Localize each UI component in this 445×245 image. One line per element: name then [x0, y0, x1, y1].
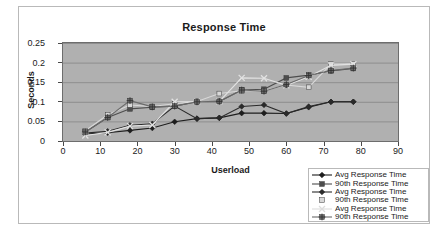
chart-title: Response Time — [19, 21, 429, 33]
y-tick-label: 0.1 — [5, 97, 45, 107]
legend-label: 90th Response Time — [333, 213, 408, 221]
data-point-square-cross — [238, 87, 245, 94]
x-tick-mark — [398, 142, 399, 146]
x-tick-label: 50 — [236, 146, 262, 156]
data-point-diamond — [261, 102, 267, 108]
data-point-square-cross — [328, 67, 335, 74]
legend-marker-square-cross-icon — [311, 213, 333, 221]
legend-label: Avg Response Time — [333, 171, 406, 179]
x-tick-mark — [63, 142, 64, 146]
y-tick-label: 0.2 — [5, 58, 45, 68]
x-tick-label: 70 — [311, 146, 337, 156]
data-point-square-cross — [319, 214, 326, 221]
data-point-diamond — [239, 110, 245, 116]
data-point-diamond — [172, 119, 178, 125]
data-point-square-cross — [171, 103, 178, 110]
chart-legend: Avg Response Time90th Response TimeAvg R… — [308, 168, 429, 222]
data-point-diamond — [319, 172, 325, 178]
x-tick-label: 40 — [199, 146, 225, 156]
x-tick-label: 90 — [385, 146, 411, 156]
x-tick-label: 20 — [124, 146, 150, 156]
legend-marker-square-icon — [311, 196, 333, 204]
x-tick-label: 60 — [273, 146, 299, 156]
x-tick-mark — [212, 142, 213, 146]
series-5 — [82, 65, 357, 136]
x-tick-mark — [100, 142, 101, 146]
legend-marker-diamond-icon — [311, 171, 333, 179]
data-point-diamond — [217, 115, 223, 121]
legend-item[interactable]: 90th Response Time — [311, 213, 426, 221]
x-tick-mark — [361, 142, 362, 146]
x-tick-label: 10 — [87, 146, 113, 156]
data-point-square-cross — [283, 81, 290, 88]
x-tick-mark — [286, 142, 287, 146]
x-tick-mark — [137, 142, 138, 146]
data-point-diamond — [261, 110, 267, 116]
x-tick-mark — [175, 142, 176, 146]
data-point-square-cross — [261, 88, 268, 95]
y-tick-label: 0.05 — [5, 116, 45, 126]
series-canvas — [63, 43, 398, 141]
series-3 — [83, 61, 356, 133]
data-point-diamond — [284, 111, 290, 117]
x-tick-label: 30 — [162, 146, 188, 156]
plot-area — [62, 42, 399, 142]
data-point-square-cross — [104, 114, 111, 121]
y-tick-label: 0 — [5, 136, 45, 146]
data-point-square — [320, 198, 325, 203]
data-point-diamond — [351, 99, 357, 105]
data-point-diamond — [319, 189, 325, 195]
x-tick-mark — [249, 142, 250, 146]
legend-marker-square-icon — [311, 180, 333, 188]
legend-marker-cross-icon — [311, 205, 333, 213]
data-point-diamond — [239, 104, 245, 110]
data-point-square — [320, 181, 325, 186]
y-tick-label: 0.25 — [5, 38, 45, 48]
legend-marker-diamond-icon — [311, 188, 333, 196]
data-point-diamond — [194, 116, 200, 122]
data-point-square-cross — [216, 98, 223, 105]
data-point-square — [284, 75, 289, 80]
data-point-square-cross — [194, 98, 201, 105]
data-point-square-cross — [149, 103, 156, 110]
data-point-square — [306, 85, 311, 90]
chart-container: Response Time Seconds Userload 00.050.10… — [18, 6, 430, 224]
data-point-square-cross — [127, 97, 134, 104]
y-tick-label: 0.15 — [5, 77, 45, 87]
x-tick-mark — [324, 142, 325, 146]
x-tick-label: 80 — [348, 146, 374, 156]
data-point-square-cross — [305, 72, 312, 79]
data-point-square-cross — [82, 129, 89, 136]
x-tick-label: 0 — [50, 146, 76, 156]
data-point-square — [217, 91, 222, 96]
data-point-square-cross — [350, 65, 357, 72]
data-point-diamond — [328, 99, 334, 105]
